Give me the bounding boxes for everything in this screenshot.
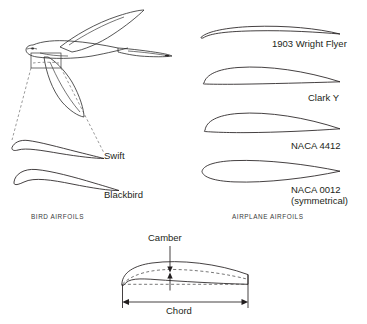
label-naca-4412: NACA 4412: [291, 140, 341, 152]
label-blackbird: Blackbird: [104, 189, 143, 201]
airfoil-comparison-figure: Swift Blackbird BIRD AIRFOILS 1903 Wrigh…: [0, 0, 367, 324]
label-chord: Chord: [166, 305, 192, 316]
camber-chord-diagram: [122, 246, 249, 308]
section-label-airplane-airfoils: AIRPLANE AIRFOILS: [232, 213, 304, 220]
label-clark-y: Clark Y: [308, 92, 339, 104]
label-camber: Camber: [148, 232, 182, 243]
diagram-airfoil-outline: [122, 262, 248, 286]
airfoil-blackbird: [14, 169, 119, 190]
swift-bird-illustration: [26, 10, 172, 117]
label-wright-flyer: 1903 Wright Flyer: [272, 38, 347, 50]
airfoil-wright-flyer: [201, 26, 340, 38]
section-label-bird-airfoils: BIRD AIRFOILS: [31, 213, 84, 220]
camber-arrow-upper: [167, 246, 172, 273]
airfoil-naca-4412: [204, 113, 340, 133]
label-swift: Swift: [104, 150, 125, 162]
airfoil-clark-y: [203, 67, 340, 84]
label-naca-0012-sublabel: (symmetrical): [291, 195, 348, 207]
airfoil-swift: [12, 140, 104, 158]
camber-arrow-lower: [167, 272, 172, 290]
airfoil-naca-0012: [202, 160, 340, 182]
